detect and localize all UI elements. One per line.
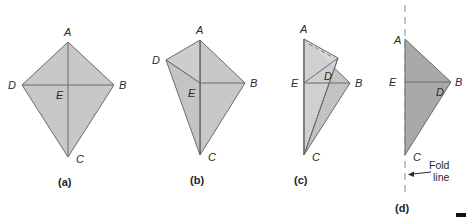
right-half — [200, 40, 245, 155]
vertex-label-c: C — [76, 153, 84, 165]
vertex-label-a: A — [299, 23, 307, 35]
vertex-label-e: E — [188, 87, 196, 99]
figure-c: A B C D E (c) — [291, 23, 362, 186]
vertex-label-d: D — [436, 86, 444, 98]
vertex-label-a: A — [63, 26, 71, 38]
vertex-label-b: B — [250, 77, 257, 89]
vertex-label-d: D — [8, 79, 16, 91]
vertex-label-e: E — [291, 77, 299, 89]
vertex-label-d: D — [324, 70, 332, 82]
figure-b: A B C D E (b) — [152, 24, 257, 186]
vertex-label-b: B — [455, 76, 462, 88]
fold-note-line2: line — [433, 171, 450, 183]
vertex-label-c: C — [312, 151, 320, 163]
kite-folding-diagram: A B C D E (a) A B C D E (b) — [0, 0, 470, 220]
figure-caption: (a) — [58, 176, 72, 188]
end-mark — [456, 213, 466, 217]
folded-kite — [405, 39, 451, 155]
fold-note-line1: Fold — [429, 159, 450, 171]
vertex-label-a: A — [195, 24, 203, 36]
vertex-label-e: E — [56, 89, 64, 101]
arrow-shaft — [413, 172, 431, 174]
vertex-label-b: B — [355, 77, 362, 89]
vertex-label-b: B — [119, 79, 126, 91]
figure-caption: (d) — [395, 202, 409, 214]
vertex-label-a: A — [393, 34, 401, 46]
figure-a: A B C D E (a) — [8, 26, 126, 188]
figure-caption: (b) — [190, 174, 204, 186]
vertex-label-d: D — [152, 54, 160, 66]
figure-caption: (c) — [294, 174, 308, 186]
vertex-label-c: C — [208, 151, 216, 163]
vertex-label-c: C — [413, 151, 421, 163]
arrow-left-icon — [408, 172, 414, 178]
vertex-label-e: E — [389, 76, 397, 88]
figure-d: A B C D E Fold line (d) — [389, 5, 462, 214]
